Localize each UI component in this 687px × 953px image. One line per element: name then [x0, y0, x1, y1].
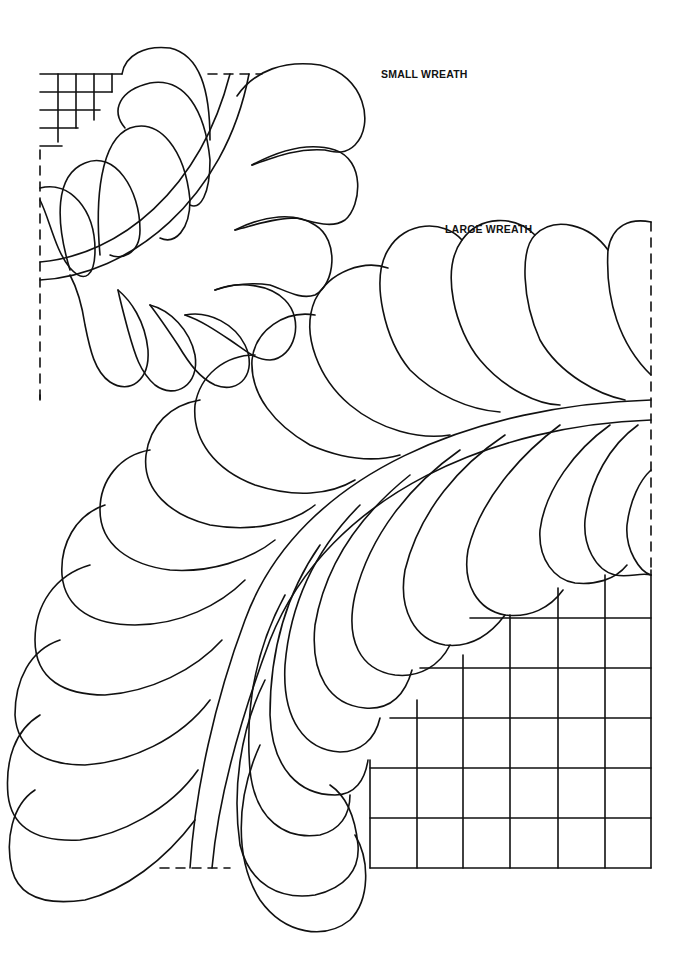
large-wreath — [7, 221, 651, 932]
large-wreath-label: LARGE WREATH — [445, 223, 532, 235]
small-wreath-inner-feathers — [40, 47, 210, 276]
small-wreath — [40, 47, 365, 400]
quilting-pattern-drawing — [0, 0, 687, 953]
large-wreath-frame — [160, 222, 651, 868]
large-wreath-inner-feathers — [237, 425, 651, 932]
small-wreath-label: SMALL WREATH — [381, 68, 468, 80]
small-wreath-stem — [40, 74, 249, 280]
small-wreath-grid — [40, 74, 122, 146]
large-wreath-outer-feathers — [7, 221, 651, 902]
